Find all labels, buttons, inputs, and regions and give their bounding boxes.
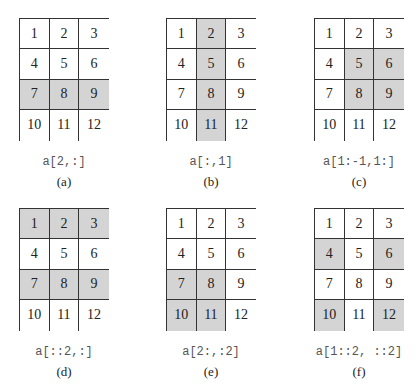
array-cell: 8 [345, 80, 375, 110]
slice-expression: a[:,1] [146, 155, 276, 169]
array-cell: 10 [315, 300, 345, 330]
array-cell: 4 [167, 239, 197, 269]
array-cell: 4 [315, 49, 345, 79]
array-cell: 2 [50, 19, 80, 49]
array-cell: 1 [167, 19, 197, 49]
array-cell: 7 [167, 80, 197, 110]
array-cell: 8 [345, 270, 375, 300]
panel-label: (b) [146, 174, 276, 190]
panel-label: (d) [0, 364, 129, 380]
panel-label: (f) [294, 364, 416, 380]
array-cell: 7 [167, 270, 197, 300]
array-cell: 3 [79, 209, 109, 239]
array-cell: 2 [197, 209, 227, 239]
array-cell: 10 [315, 110, 345, 140]
array-cell: 9 [226, 270, 256, 300]
array-cell: 12 [226, 110, 256, 140]
array-cell: 11 [197, 110, 227, 140]
array-cell: 3 [226, 19, 256, 49]
array-cell: 7 [315, 270, 345, 300]
array-cell: 2 [197, 19, 227, 49]
array-cell: 4 [167, 49, 197, 79]
array-cell: 2 [345, 19, 375, 49]
array-cell: 5 [197, 49, 227, 79]
slice-expression: a[::2,:] [0, 345, 129, 359]
array-cell: 7 [20, 270, 50, 300]
array-cell: 10 [167, 300, 197, 330]
array-cell: 3 [374, 19, 404, 49]
array-cell: 12 [374, 300, 404, 330]
array-grid-c: 123456789101112 [314, 18, 404, 141]
array-grid-b: 123456789101112 [166, 18, 256, 141]
array-cell: 6 [374, 239, 404, 269]
array-cell: 7 [315, 80, 345, 110]
array-cell: 3 [226, 209, 256, 239]
array-cell: 5 [345, 49, 375, 79]
array-cell: 11 [345, 110, 375, 140]
array-cell: 10 [20, 110, 50, 140]
array-cell: 1 [20, 209, 50, 239]
array-cell: 3 [79, 19, 109, 49]
array-cell: 6 [226, 49, 256, 79]
panel-label: (c) [294, 174, 416, 190]
panel-label: (a) [0, 174, 129, 190]
array-cell: 9 [79, 80, 109, 110]
array-cell: 1 [315, 209, 345, 239]
array-cell: 7 [20, 80, 50, 110]
array-cell: 12 [374, 110, 404, 140]
array-cell: 5 [345, 239, 375, 269]
slice-expression: a[1:-1,1:] [294, 155, 416, 169]
array-cell: 8 [50, 270, 80, 300]
array-cell: 11 [345, 300, 375, 330]
array-cell: 11 [50, 300, 80, 330]
array-cell: 3 [374, 209, 404, 239]
array-cell: 1 [20, 19, 50, 49]
slice-expression: a[2,:] [0, 155, 129, 169]
array-grid-a: 123456789101112 [19, 18, 109, 141]
array-cell: 6 [79, 49, 109, 79]
array-cell: 12 [79, 300, 109, 330]
array-cell: 10 [20, 300, 50, 330]
array-grid-e: 123456789101112 [166, 208, 256, 331]
array-cell: 1 [315, 19, 345, 49]
array-grid-d: 123456789101112 [19, 208, 109, 331]
array-cell: 9 [374, 80, 404, 110]
array-cell: 6 [374, 49, 404, 79]
array-cell: 6 [79, 239, 109, 269]
array-cell: 9 [226, 80, 256, 110]
array-cell: 12 [226, 300, 256, 330]
array-cell: 1 [167, 209, 197, 239]
array-cell: 11 [50, 110, 80, 140]
array-cell: 4 [20, 49, 50, 79]
array-cell: 11 [197, 300, 227, 330]
array-cell: 2 [50, 209, 80, 239]
array-cell: 6 [226, 239, 256, 269]
array-cell: 8 [197, 80, 227, 110]
array-cell: 8 [50, 80, 80, 110]
array-grid-f: 123456789101112 [314, 208, 404, 331]
array-cell: 8 [197, 270, 227, 300]
slice-expression: a[1::2, ::2] [294, 345, 416, 359]
slice-expression: a[2:,:2] [146, 345, 276, 359]
array-cell: 5 [50, 49, 80, 79]
array-cell: 10 [167, 110, 197, 140]
array-cell: 4 [315, 239, 345, 269]
array-cell: 9 [79, 270, 109, 300]
array-cell: 5 [50, 239, 80, 269]
panel-label: (e) [146, 364, 276, 380]
array-cell: 4 [20, 239, 50, 269]
array-cell: 12 [79, 110, 109, 140]
array-cell: 9 [374, 270, 404, 300]
array-cell: 2 [345, 209, 375, 239]
array-cell: 5 [197, 239, 227, 269]
